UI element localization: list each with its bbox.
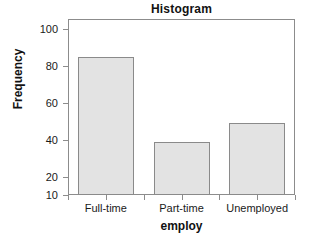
y-axis-title: Frequency [11, 24, 25, 134]
x-tick-label: Part-time [144, 201, 220, 215]
x-tick-mark [257, 195, 258, 200]
bar [154, 142, 210, 195]
x-tick-mark [144, 195, 145, 200]
y-tick-label: 60 [0, 97, 66, 109]
chart-title: Histogram [68, 2, 295, 16]
y-tick-label: 100 [0, 23, 66, 35]
x-tick-label: Full-time [68, 201, 144, 215]
x-axis-title: employ [68, 219, 295, 233]
histogram-chart: Histogram Frequency employ 1020406080100… [0, 0, 311, 241]
y-tick-label: 10 [0, 189, 66, 201]
y-tick-label: 20 [0, 171, 66, 183]
x-tick-mark [219, 195, 220, 200]
x-tick-mark [182, 195, 183, 200]
y-tick-label: 80 [0, 60, 66, 72]
y-tick-label: 40 [0, 134, 66, 146]
plot-area [68, 19, 295, 195]
x-tick-label: Unemployed [219, 201, 295, 215]
x-tick-mark [68, 195, 69, 200]
bar [229, 123, 285, 195]
x-tick-mark [106, 195, 107, 200]
x-tick-mark [295, 195, 296, 200]
bar [78, 57, 134, 195]
